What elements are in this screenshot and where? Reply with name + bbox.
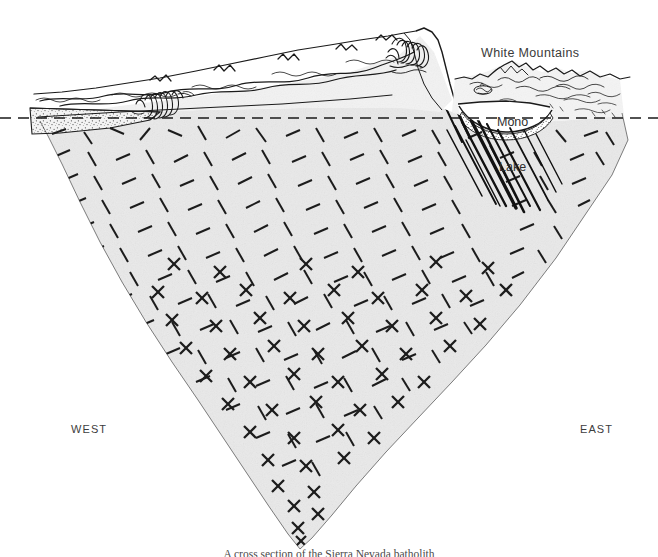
label-mono-lake: Mono Lake <box>497 85 528 190</box>
label-white-mountains: White Mountains <box>481 46 579 60</box>
label-mono-line1: Mono <box>497 115 528 130</box>
label-lake-line2: Lake <box>497 160 528 175</box>
geologic-cross-section-figure <box>0 0 658 557</box>
label-east: EAST <box>580 423 613 435</box>
label-west: WEST <box>71 423 107 435</box>
figure-caption: A cross section of the Sierra Nevada bat… <box>0 548 658 557</box>
